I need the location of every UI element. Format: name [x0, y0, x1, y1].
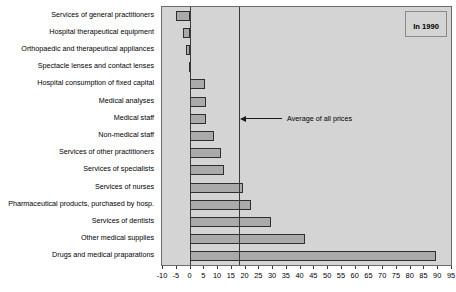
legend-box: In 1990 — [405, 11, 447, 37]
category-label: Non-medical staff — [0, 131, 154, 138]
category-label: Medical analyses — [0, 97, 154, 104]
x-tick — [313, 266, 314, 269]
category-label: Medical staff — [0, 114, 154, 121]
x-tick-label: 85 — [419, 271, 427, 280]
x-tick — [410, 266, 411, 269]
x-tick — [355, 266, 356, 269]
x-tick-label: 30 — [268, 271, 276, 280]
bar — [176, 11, 190, 21]
x-tick — [217, 266, 218, 269]
plot-inner: Average of all prices — [162, 7, 451, 265]
x-axis: -10-505101520253035404550556065707580859… — [161, 266, 452, 292]
x-tick-label: 55 — [337, 271, 345, 280]
bar — [190, 217, 271, 227]
category-label: Services of nurses — [0, 183, 154, 190]
average-reference-line — [239, 7, 240, 265]
x-tick-label: 20 — [240, 271, 248, 280]
category-label: Services of general practitioners — [0, 11, 154, 18]
x-tick — [272, 266, 273, 269]
x-tick-label: 50 — [323, 271, 331, 280]
category-label: Other medical supplies — [0, 234, 154, 241]
bar — [190, 114, 207, 124]
category-label: Services of specialists — [0, 165, 154, 172]
x-tick-label: 35 — [282, 271, 290, 280]
category-label: Hospital therapeutical equipment — [0, 28, 154, 35]
x-tick-label: 25 — [254, 271, 262, 280]
x-tick-label: 45 — [309, 271, 317, 280]
bar — [190, 148, 222, 158]
bar — [190, 79, 205, 89]
bar — [190, 251, 436, 261]
x-tick — [382, 266, 383, 269]
x-tick — [423, 266, 424, 269]
category-label: Spectacle lenses and contact lenses — [0, 62, 154, 69]
category-label: Services of dentists — [0, 217, 154, 224]
category-label: Services of other practitioners — [0, 148, 154, 155]
x-tick — [176, 266, 177, 269]
average-annotation-label: Average of all prices — [287, 114, 352, 123]
x-tick — [286, 266, 287, 269]
legend-label: In 1990 — [413, 22, 439, 31]
zero-axis-line — [190, 7, 191, 265]
x-tick — [162, 266, 163, 269]
x-tick-label: 15 — [227, 271, 235, 280]
x-tick — [300, 266, 301, 269]
x-tick-label: -10 — [157, 271, 168, 280]
bar — [190, 183, 244, 193]
x-tick-label: 40 — [295, 271, 303, 280]
plot-area: Average of all prices In 1990 — [161, 6, 452, 266]
x-tick — [203, 266, 204, 269]
x-tick — [190, 266, 191, 269]
annotation-leader-line — [246, 118, 282, 119]
x-tick-label: 90 — [433, 271, 441, 280]
x-tick-label: 80 — [406, 271, 414, 280]
bar — [190, 165, 224, 175]
x-tick-label: 0 — [187, 271, 191, 280]
x-tick-label: 95 — [447, 271, 455, 280]
x-tick-label: -5 — [172, 271, 179, 280]
bar — [190, 131, 215, 141]
x-tick — [341, 266, 342, 269]
x-tick — [437, 266, 438, 269]
x-tick — [231, 266, 232, 269]
x-tick — [396, 266, 397, 269]
x-tick — [245, 266, 246, 269]
category-label: Pharmaceutical products, purchased by ho… — [0, 200, 154, 207]
x-tick-label: 75 — [392, 271, 400, 280]
bar — [190, 200, 252, 210]
x-tick — [451, 266, 452, 269]
x-tick-label: 70 — [378, 271, 386, 280]
x-tick-label: 65 — [364, 271, 372, 280]
bar-chart: Services of general practitionersHospita… — [0, 0, 456, 292]
category-label: Hospital consumption of fixed capital — [0, 79, 154, 86]
bar — [190, 234, 306, 244]
average-annotation: Average of all prices — [240, 114, 352, 124]
x-tick-label: 5 — [201, 271, 205, 280]
bar — [190, 97, 207, 107]
category-label: Drugs and medical praparations — [0, 251, 154, 258]
category-label: Orthopaedic and therapeutical appliances — [0, 45, 154, 52]
bar — [183, 28, 190, 38]
x-tick-label: 10 — [213, 271, 221, 280]
category-axis-labels: Services of general practitionersHospita… — [0, 6, 158, 266]
x-tick-label: 60 — [351, 271, 359, 280]
x-tick — [327, 266, 328, 269]
x-tick — [258, 266, 259, 269]
x-tick — [368, 266, 369, 269]
